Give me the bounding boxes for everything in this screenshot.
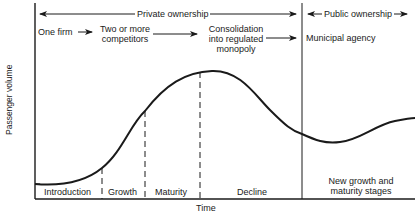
competitors-label: Two or more competitors (96, 24, 154, 44)
consolidation-label: Consolidation into regulated monopoly (204, 24, 268, 54)
new-growth-label-line2: maturity stages (318, 186, 404, 196)
one-firm-label: One firm (38, 27, 73, 37)
new-growth-label: New growth and maturity stages (318, 176, 404, 196)
y-axis-label: Passenger volume (4, 65, 14, 135)
public-ownership-label: Public ownership (324, 9, 392, 19)
introduction-label: Introduction (44, 187, 91, 197)
growth-label: Growth (108, 187, 137, 197)
decline-label: Decline (237, 187, 267, 197)
consolidation-label-line2: into regulated (204, 34, 268, 44)
consolidation-label-line3: monopoly (204, 44, 268, 54)
private-ownership-label: Private ownership (137, 9, 209, 19)
maturity-label: Maturity (155, 187, 187, 197)
x-axis-label: Time (196, 203, 216, 213)
new-growth-label-line1: New growth and (318, 176, 404, 186)
consolidation-label-line1: Consolidation (204, 24, 268, 34)
municipal-agency-label: Municipal agency (306, 33, 376, 43)
passenger-volume-curve (35, 71, 415, 185)
competitors-label-line1: Two or more (96, 24, 154, 34)
competitors-label-line2: competitors (96, 34, 154, 44)
